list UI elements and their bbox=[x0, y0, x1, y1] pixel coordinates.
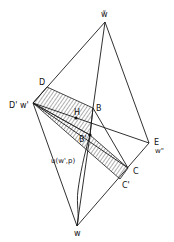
geometric-diagram: w̃ D D' w' B H B' E w" C C' w u(w',p) bbox=[0, 0, 174, 242]
label-w-double-prime: w" bbox=[155, 147, 164, 155]
edge-wbar-dprime bbox=[33, 22, 105, 103]
label-wbar: w̃ bbox=[101, 10, 108, 19]
point-bprime bbox=[88, 133, 91, 136]
label-bprime: B' bbox=[79, 135, 87, 144]
label-dprime-wprime: D' w' bbox=[9, 101, 29, 110]
label-e: E bbox=[154, 138, 159, 147]
label-h: H bbox=[74, 108, 80, 117]
label-d: D bbox=[39, 78, 45, 87]
label-c-prime: C' bbox=[122, 181, 130, 190]
edge-bprime-w bbox=[77, 135, 90, 226]
label-w: w bbox=[74, 229, 81, 238]
label-curve-u: u(w',p) bbox=[51, 157, 75, 165]
edge-wbar-e bbox=[105, 22, 149, 143]
edge-wbar-b bbox=[93, 22, 105, 108]
label-b: B bbox=[96, 104, 102, 113]
label-c: C bbox=[133, 167, 139, 176]
